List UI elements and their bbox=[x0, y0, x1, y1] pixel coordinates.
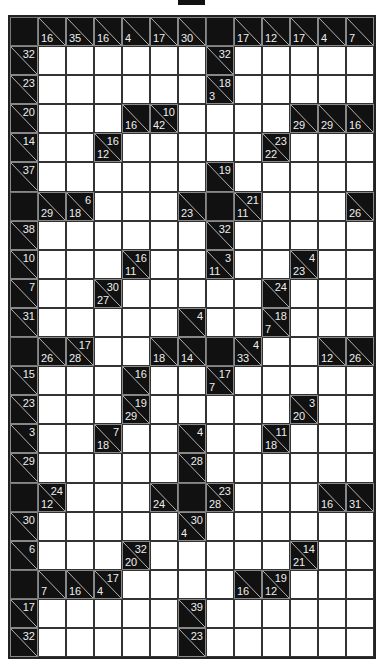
answer-cell[interactable] bbox=[178, 541, 206, 570]
answer-cell[interactable] bbox=[206, 570, 234, 599]
answer-cell[interactable] bbox=[206, 628, 234, 657]
answer-cell[interactable] bbox=[234, 424, 262, 453]
answer-cell[interactable] bbox=[38, 366, 66, 395]
answer-cell[interactable] bbox=[262, 46, 290, 75]
answer-cell[interactable] bbox=[150, 541, 178, 570]
answer-cell[interactable] bbox=[94, 162, 122, 191]
answer-cell[interactable] bbox=[38, 308, 66, 337]
answer-cell[interactable] bbox=[262, 104, 290, 133]
answer-cell[interactable] bbox=[262, 453, 290, 482]
answer-cell[interactable] bbox=[38, 541, 66, 570]
answer-cell[interactable] bbox=[234, 250, 262, 279]
answer-cell[interactable] bbox=[150, 192, 178, 221]
answer-cell[interactable] bbox=[206, 133, 234, 162]
answer-cell[interactable] bbox=[346, 512, 374, 541]
answer-cell[interactable] bbox=[94, 104, 122, 133]
answer-cell[interactable] bbox=[318, 512, 346, 541]
answer-cell[interactable] bbox=[318, 162, 346, 191]
answer-cell[interactable] bbox=[94, 46, 122, 75]
answer-cell[interactable] bbox=[262, 221, 290, 250]
answer-cell[interactable] bbox=[346, 599, 374, 628]
answer-cell[interactable] bbox=[262, 192, 290, 221]
answer-cell[interactable] bbox=[122, 221, 150, 250]
answer-cell[interactable] bbox=[262, 512, 290, 541]
answer-cell[interactable] bbox=[206, 424, 234, 453]
answer-cell[interactable] bbox=[94, 628, 122, 657]
answer-cell[interactable] bbox=[150, 250, 178, 279]
answer-cell[interactable] bbox=[150, 366, 178, 395]
answer-cell[interactable] bbox=[150, 308, 178, 337]
answer-cell[interactable] bbox=[38, 628, 66, 657]
answer-cell[interactable] bbox=[66, 250, 94, 279]
answer-cell[interactable] bbox=[262, 250, 290, 279]
answer-cell[interactable] bbox=[206, 395, 234, 424]
answer-cell[interactable] bbox=[318, 75, 346, 104]
answer-cell[interactable] bbox=[66, 133, 94, 162]
answer-cell[interactable] bbox=[122, 512, 150, 541]
answer-cell[interactable] bbox=[234, 133, 262, 162]
answer-cell[interactable] bbox=[38, 46, 66, 75]
answer-cell[interactable] bbox=[178, 46, 206, 75]
answer-cell[interactable] bbox=[150, 453, 178, 482]
answer-cell[interactable] bbox=[38, 250, 66, 279]
answer-cell[interactable] bbox=[346, 75, 374, 104]
answer-cell[interactable] bbox=[346, 250, 374, 279]
answer-cell[interactable] bbox=[122, 46, 150, 75]
answer-cell[interactable] bbox=[234, 483, 262, 512]
answer-cell[interactable] bbox=[94, 541, 122, 570]
answer-cell[interactable] bbox=[38, 424, 66, 453]
answer-cell[interactable] bbox=[178, 162, 206, 191]
answer-cell[interactable] bbox=[290, 483, 318, 512]
answer-cell[interactable] bbox=[346, 395, 374, 424]
answer-cell[interactable] bbox=[206, 599, 234, 628]
answer-cell[interactable] bbox=[178, 133, 206, 162]
answer-cell[interactable] bbox=[290, 221, 318, 250]
answer-cell[interactable] bbox=[346, 46, 374, 75]
answer-cell[interactable] bbox=[38, 279, 66, 308]
answer-cell[interactable] bbox=[262, 628, 290, 657]
answer-cell[interactable] bbox=[262, 599, 290, 628]
answer-cell[interactable] bbox=[66, 279, 94, 308]
answer-cell[interactable] bbox=[178, 250, 206, 279]
answer-cell[interactable] bbox=[318, 366, 346, 395]
answer-cell[interactable] bbox=[66, 221, 94, 250]
answer-cell[interactable] bbox=[150, 628, 178, 657]
answer-cell[interactable] bbox=[206, 541, 234, 570]
answer-cell[interactable] bbox=[66, 424, 94, 453]
answer-cell[interactable] bbox=[290, 192, 318, 221]
answer-cell[interactable] bbox=[38, 162, 66, 191]
answer-cell[interactable] bbox=[346, 570, 374, 599]
answer-cell[interactable] bbox=[234, 308, 262, 337]
answer-cell[interactable] bbox=[94, 192, 122, 221]
answer-cell[interactable] bbox=[66, 453, 94, 482]
answer-cell[interactable] bbox=[290, 133, 318, 162]
answer-cell[interactable] bbox=[262, 366, 290, 395]
answer-cell[interactable] bbox=[94, 599, 122, 628]
answer-cell[interactable] bbox=[94, 395, 122, 424]
answer-cell[interactable] bbox=[178, 570, 206, 599]
answer-cell[interactable] bbox=[234, 541, 262, 570]
answer-cell[interactable] bbox=[318, 599, 346, 628]
answer-cell[interactable] bbox=[346, 453, 374, 482]
answer-cell[interactable] bbox=[122, 424, 150, 453]
answer-cell[interactable] bbox=[122, 628, 150, 657]
answer-cell[interactable] bbox=[122, 483, 150, 512]
answer-cell[interactable] bbox=[66, 104, 94, 133]
answer-cell[interactable] bbox=[66, 541, 94, 570]
answer-cell[interactable] bbox=[94, 483, 122, 512]
answer-cell[interactable] bbox=[38, 133, 66, 162]
answer-cell[interactable] bbox=[318, 133, 346, 162]
answer-cell[interactable] bbox=[66, 599, 94, 628]
answer-cell[interactable] bbox=[346, 308, 374, 337]
answer-cell[interactable] bbox=[178, 279, 206, 308]
answer-cell[interactable] bbox=[318, 250, 346, 279]
answer-cell[interactable] bbox=[66, 46, 94, 75]
answer-cell[interactable] bbox=[290, 453, 318, 482]
answer-cell[interactable] bbox=[318, 279, 346, 308]
answer-cell[interactable] bbox=[122, 453, 150, 482]
answer-cell[interactable] bbox=[318, 221, 346, 250]
answer-cell[interactable] bbox=[290, 599, 318, 628]
answer-cell[interactable] bbox=[150, 221, 178, 250]
answer-cell[interactable] bbox=[66, 366, 94, 395]
answer-cell[interactable] bbox=[38, 453, 66, 482]
